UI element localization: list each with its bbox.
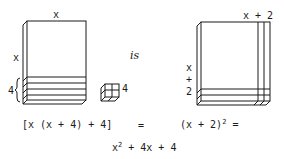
diagram-drawing xyxy=(0,0,284,159)
result-rest: + 4x + 4 xyxy=(122,142,176,153)
right-expression-base: (x + 2) xyxy=(180,119,222,130)
left-expression: [x (x + 4) + 4] xyxy=(22,120,112,130)
right-box-top-label: x + 2 xyxy=(243,11,273,21)
small-cube xyxy=(101,84,119,101)
left-box-side-label: x xyxy=(13,53,19,63)
right-expression: (x + 2)2 = xyxy=(180,120,238,130)
left-box-slab-label: 4 xyxy=(8,86,14,96)
right-box xyxy=(197,22,270,105)
left-box-top-label: x xyxy=(53,10,59,20)
small-cube-label: 4 xyxy=(122,84,128,94)
equals-sign-2: = xyxy=(232,119,238,130)
right-box-side-label-2: 2 xyxy=(186,87,192,97)
connector-word: is xyxy=(130,51,139,61)
left-box xyxy=(23,21,86,104)
right-box-side-label-x: x xyxy=(186,63,192,73)
right-box-side-label-plus: + xyxy=(186,75,192,85)
right-expression-exponent: 2 xyxy=(222,118,226,126)
equals-sign-1: = xyxy=(138,121,144,131)
result-expression: x2 + 4x + 4 xyxy=(112,143,176,153)
slab-brace xyxy=(15,78,20,102)
